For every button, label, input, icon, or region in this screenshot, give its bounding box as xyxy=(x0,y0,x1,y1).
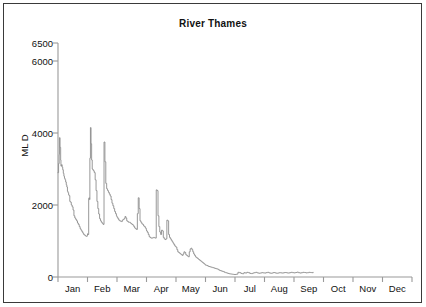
data-series-line xyxy=(58,128,313,275)
y-axis-line-group xyxy=(53,43,58,277)
x-axis-tick-label: Dec xyxy=(377,283,417,294)
chart-figure: River Thames ML D 02000400060006500 JanF… xyxy=(0,0,426,307)
x-axis-line-group xyxy=(58,277,412,282)
x-axis-ticks xyxy=(58,277,412,282)
chart-plot-area xyxy=(0,0,426,307)
y-axis-ticks xyxy=(53,43,58,277)
